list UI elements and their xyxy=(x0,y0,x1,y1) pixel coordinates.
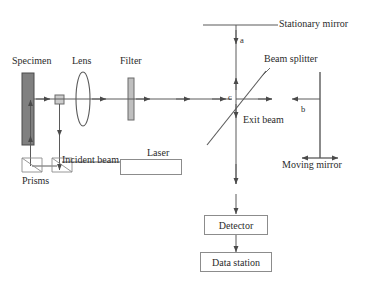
ftir-spectrometer-diagram: Stationary mirror a Beam splitter Specim… xyxy=(0,0,368,284)
detector-box: Detector xyxy=(204,215,268,235)
stationary-mirror-label: Stationary mirror xyxy=(279,19,348,29)
diagram-canvas xyxy=(0,0,368,284)
beam-splitter-leader xyxy=(262,68,270,76)
prism-left xyxy=(22,158,42,172)
specimen-slab xyxy=(22,73,34,145)
moving-mirror-label: Moving mirror xyxy=(282,160,342,170)
data-station-box: Data station xyxy=(200,252,272,272)
lens-label: Lens xyxy=(72,56,91,66)
moving-mirror xyxy=(302,72,338,158)
path-b-label: b xyxy=(301,105,305,114)
laser-label: Laser xyxy=(147,148,169,158)
specimen-label: Specimen xyxy=(12,56,51,66)
prisms-label: Prisms xyxy=(22,176,49,186)
beam-splitter-label: Beam splitter xyxy=(264,54,318,64)
incident-beam-label: Incident beam xyxy=(62,155,119,165)
point-c-label: c xyxy=(228,93,232,102)
exit-beam-label: Exit beam xyxy=(243,115,284,125)
path-a-label: a xyxy=(240,36,244,45)
laser-box xyxy=(120,159,182,175)
filter-label: Filter xyxy=(120,56,142,66)
